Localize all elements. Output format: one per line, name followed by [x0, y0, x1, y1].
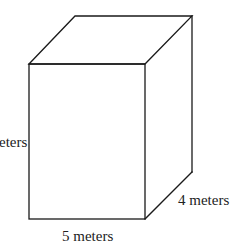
- depth-label: 4 meters: [178, 192, 229, 208]
- top-face: [29, 16, 192, 64]
- height-label: eters: [0, 134, 27, 150]
- front-face: [29, 64, 145, 219]
- width-label: 5 meters: [62, 228, 113, 244]
- rectangular-prism-diagram: eters 5 meters 4 meters: [0, 0, 240, 252]
